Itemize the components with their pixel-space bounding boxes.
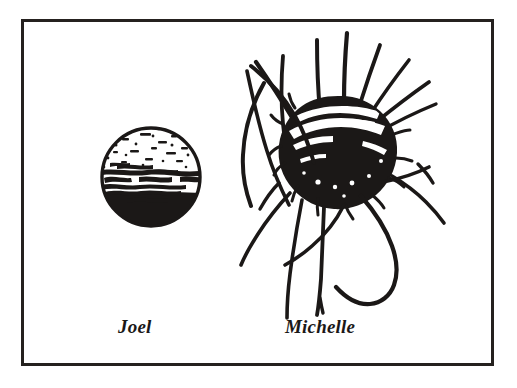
figure-border — [21, 19, 494, 366]
caption-joel: Joel — [118, 316, 152, 338]
caption-michelle: Michelle — [285, 316, 355, 338]
figure-root: Joel Michelle — [0, 0, 517, 388]
